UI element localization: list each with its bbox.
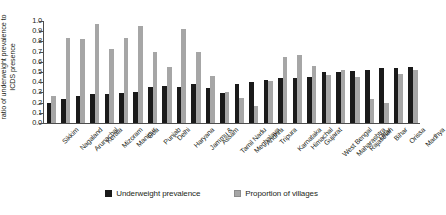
y-tick-mark [39,41,43,42]
bar-proportion-of-villages [370,99,375,123]
y-tick-mark [39,123,43,124]
bar-group [391,21,405,123]
bar-proportion-of-villages [384,103,389,123]
bar-proportion-of-villages [398,74,403,123]
y-tick-mark [39,31,43,32]
bar-group [189,21,203,123]
bar-group [160,21,174,123]
bar-proportion-of-villages [124,38,129,123]
bar-proportion-of-villages [268,81,273,123]
bar-group [362,21,376,123]
bar-groups [44,21,420,123]
bar-group [131,21,145,123]
bar-group [44,21,58,123]
legend-swatch-dark [105,190,112,197]
legend-label: Proportion of villages [245,189,318,198]
x-tick-label: Assam [220,126,240,146]
legend-label: Underweight prevalence [116,189,200,198]
bar-proportion-of-villages [196,52,201,123]
bar-proportion-of-villages [210,76,215,123]
bar-group [116,21,130,123]
x-tick-label: Goa [146,126,160,140]
x-tick-label: Kerala [104,126,123,145]
bar-group [348,21,362,123]
bar-proportion-of-villages [51,96,56,123]
bar-proportion-of-villages [167,67,172,123]
bar-group [232,21,246,123]
bar-proportion-of-villages [312,66,317,123]
bar-group [203,21,217,123]
y-tick-mark [39,62,43,63]
bar-proportion-of-villages [95,24,100,123]
bar-proportion-of-villages [153,52,158,123]
bar-group [174,21,188,123]
bar-group [290,21,304,123]
y-tick-mark [39,103,43,104]
y-tick-mark [39,52,43,53]
legend-item: Proportion of villages [234,189,318,198]
bar-proportion-of-villages [297,55,302,123]
bar-group [247,21,261,123]
bar-proportion-of-villages [341,70,346,123]
bar-proportion-of-villages [239,98,244,124]
bar-proportion-of-villages [283,57,288,123]
chart-legend: Underweight prevalenceProportion of vill… [0,189,423,198]
legend-swatch-light [234,190,241,197]
bar-proportion-of-villages [138,26,143,123]
bar-group [333,21,347,123]
bar-group [377,21,391,123]
y-tick-mark [39,72,43,73]
y-axis-title: ratio of underweight prevalence to ICDS … [0,8,17,126]
y-tick-mark [39,113,43,114]
bar-proportion-of-villages [225,92,230,123]
bar-proportion-of-villages [355,77,360,123]
bar-group [145,21,159,123]
bar-group [218,21,232,123]
bar-group [102,21,116,123]
bar-proportion-of-villages [413,70,418,123]
bar-group [87,21,101,123]
y-tick-mark [39,82,43,83]
bar-proportion-of-villages [254,106,259,123]
bar-proportion-of-villages [66,38,71,123]
bar-proportion-of-villages [109,49,114,123]
x-tick-label: Bihar [392,126,408,142]
x-tick-label: Madhya [424,126,446,148]
bar-group [319,21,333,123]
bar-group [58,21,72,123]
bar-proportion-of-villages [80,39,85,123]
bar-group [73,21,87,123]
y-axis-title-container: ratio of underweight prevalence to ICDS … [0,8,26,128]
x-tick-label: Sikkim [61,126,80,145]
legend-item: Underweight prevalence [105,189,200,198]
y-tick-mark [39,21,43,22]
y-tick-mark [39,92,43,93]
bar-group [304,21,318,123]
bar-group [406,21,420,123]
x-axis-tick-labels: SikkimNagalandArunachalKeralaMizoramMani… [44,124,420,180]
bar-proportion-of-villages [326,75,331,123]
bar-group [261,21,275,123]
bar-group [276,21,290,123]
bar-proportion-of-villages [181,29,186,123]
